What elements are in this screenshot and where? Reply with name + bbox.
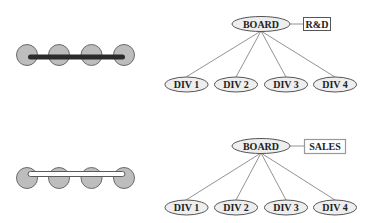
sales-box[interactable]: SALES (305, 140, 346, 154)
div-label: DIV 4 (322, 79, 348, 90)
sales-org-chart: BOARD SALES DIV 1 DIV 2 DIV 3 DIV 4 (165, 139, 357, 216)
div-3-node[interactable]: DIV 3 (265, 200, 308, 215)
solid-bar (28, 55, 125, 60)
div-3-node[interactable]: DIV 3 (265, 77, 308, 92)
board-node[interactable]: BOARD (232, 139, 290, 154)
connector-line (261, 153, 286, 200)
div-label: DIV 2 (223, 202, 249, 213)
bead (17, 168, 38, 189)
board-label: BOARD (243, 19, 279, 30)
board-label: BOARD (243, 141, 279, 152)
div-2-node[interactable]: DIV 2 (215, 200, 258, 215)
div-label: DIV 1 (174, 79, 200, 90)
bead (81, 168, 102, 189)
connector-line (186, 153, 261, 200)
div-label: DIV 4 (322, 202, 348, 213)
diagram-canvas: BOARD R&D DIV 1 DIV 2 DIV 3 DIV 4 (0, 0, 374, 223)
connector-line (186, 31, 261, 77)
bead (49, 168, 70, 189)
connector-line (236, 153, 261, 200)
connector-line (261, 31, 335, 77)
bead (114, 168, 135, 189)
sales-label: SALES (309, 141, 341, 152)
div-label: DIV 3 (273, 202, 299, 213)
connector-line (261, 153, 335, 200)
div-1-node[interactable]: DIV 1 (165, 200, 208, 215)
beads-on-solid-bar-icon (17, 45, 135, 66)
div-label: DIV 3 (273, 79, 299, 90)
board-node[interactable]: BOARD (232, 17, 290, 32)
div-4-node[interactable]: DIV 4 (314, 77, 357, 92)
rnd-org-chart: BOARD R&D DIV 1 DIV 2 DIV 3 DIV 4 (165, 17, 357, 93)
div-2-node[interactable]: DIV 2 (215, 77, 258, 92)
rnd-label: R&D (306, 19, 329, 30)
div-1-node[interactable]: DIV 1 (165, 77, 208, 92)
connector-line (261, 31, 286, 77)
beads-on-hollow-bar-icon (17, 168, 135, 189)
hollow-bar (28, 172, 125, 177)
rnd-box[interactable]: R&D (304, 18, 331, 31)
div-4-node[interactable]: DIV 4 (314, 200, 357, 215)
div-label: DIV 1 (174, 202, 200, 213)
div-label: DIV 2 (223, 79, 249, 90)
connector-line (236, 31, 261, 77)
